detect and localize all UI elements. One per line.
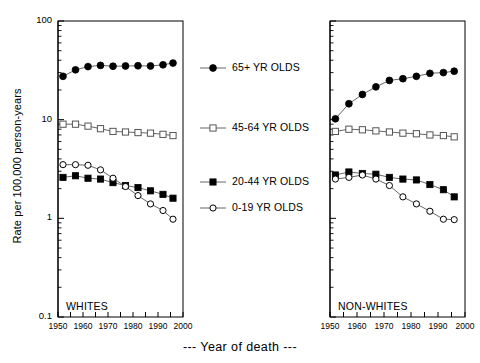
data-point-open-square [359, 127, 365, 133]
series-line [63, 176, 173, 198]
data-point-open-square [160, 131, 166, 137]
data-point-open-circle [427, 208, 433, 214]
data-point-open-circle [122, 183, 128, 189]
legend-label: 20-44 YR OLDS [232, 175, 309, 187]
data-point-filled-circle [135, 62, 142, 69]
data-point-filled-circle [170, 60, 177, 67]
data-point-filled-circle [413, 73, 420, 80]
legend-label: 65+ YR OLDS [232, 61, 300, 73]
data-point-filled-square [72, 173, 78, 179]
data-point-filled-square [451, 194, 457, 200]
panel-left [58, 21, 183, 317]
data-point-open-circle [160, 207, 166, 213]
data-point-open-circle [170, 216, 176, 222]
x-tick-label: 2000 [445, 321, 480, 331]
data-point-filled-circle [440, 69, 447, 76]
series-line [335, 129, 454, 137]
data-point-open-circle [85, 162, 91, 168]
data-point-filled-circle [160, 61, 167, 68]
y-tick-label: 100 [18, 14, 52, 25]
legend-entry [200, 65, 226, 72]
data-point-filled-square [97, 176, 103, 182]
series-open-square [60, 121, 176, 139]
data-point-open-square [122, 129, 128, 135]
data-point-filled-circle [147, 63, 154, 70]
series-line [335, 172, 454, 197]
series-open-square [332, 126, 457, 140]
series-filled-square [332, 169, 457, 200]
data-point-open-circle [373, 176, 379, 182]
data-point-filled-square [413, 177, 419, 183]
data-point-open-circle [72, 162, 78, 168]
y-tick-label: 10 [18, 113, 52, 124]
figure-caption: --- Year of death --- [0, 340, 480, 354]
series-filled-circle [332, 68, 458, 122]
data-point-filled-circle [85, 63, 92, 70]
panel-right [330, 21, 465, 317]
y-tick-label: 0.1 [18, 310, 52, 321]
data-point-open-circle [147, 201, 153, 207]
data-point-open-circle [440, 216, 446, 222]
data-point-open-square [60, 121, 66, 127]
data-point-open-square [97, 126, 103, 132]
data-point-filled-circle [72, 66, 79, 73]
data-point-open-circle [451, 217, 457, 223]
data-point-filled-square [400, 176, 406, 182]
data-point-filled-square [170, 195, 176, 201]
data-point-open-square [386, 129, 392, 135]
data-point-filled-square [147, 188, 153, 194]
data-point-filled-circle [97, 62, 104, 69]
data-point-filled-square [210, 179, 216, 185]
figure-root: Rate per 100,000 person-years --- Year o… [0, 0, 480, 363]
data-point-filled-circle [332, 115, 339, 122]
data-point-filled-circle [122, 63, 129, 70]
series-line [63, 63, 173, 76]
data-point-open-circle [110, 175, 116, 181]
data-point-open-circle [413, 201, 419, 207]
data-point-open-square [413, 131, 419, 137]
data-point-filled-square [440, 187, 446, 193]
data-point-open-square [135, 129, 141, 135]
data-point-open-square [440, 132, 446, 138]
legend-entry [200, 125, 226, 131]
legend-entry [200, 179, 226, 185]
legend-label: 0-19 YR OLDS [232, 201, 303, 213]
data-point-filled-circle [400, 75, 407, 82]
data-point-open-square [110, 128, 116, 134]
data-point-open-square [400, 130, 406, 136]
data-point-filled-square [386, 174, 392, 180]
data-point-filled-circle [346, 100, 353, 107]
data-point-filled-circle [210, 65, 217, 72]
series-line [63, 124, 173, 135]
data-point-open-circle [386, 182, 392, 188]
panel-title-right: NON-WHITES [338, 300, 408, 312]
data-point-filled-circle [451, 68, 458, 75]
data-point-open-circle [346, 174, 352, 180]
series-line [335, 71, 454, 119]
data-point-filled-square [427, 181, 433, 187]
series-line [63, 165, 173, 220]
data-point-open-circle [359, 172, 365, 178]
y-tick-label: 1 [18, 211, 52, 222]
data-point-filled-square [85, 175, 91, 181]
series-filled-square [60, 173, 176, 202]
data-point-open-square [346, 126, 352, 132]
data-point-open-square [72, 121, 78, 127]
data-point-filled-circle [110, 63, 117, 70]
data-point-filled-circle [386, 77, 393, 84]
data-point-filled-circle [60, 73, 67, 80]
series-line [335, 175, 454, 220]
data-point-open-square [85, 123, 91, 129]
panel-title-left: WHITES [66, 300, 108, 312]
data-point-open-circle [210, 205, 216, 211]
data-point-filled-circle [359, 91, 366, 98]
data-point-open-circle [400, 194, 406, 200]
x-tick-label: 2000 [163, 321, 203, 331]
legend-label: 45-64 YR OLDS [232, 121, 309, 133]
series-open-circle [60, 162, 176, 223]
series-open-circle [332, 172, 457, 223]
data-point-filled-square [135, 184, 141, 190]
data-point-filled-circle [427, 70, 434, 77]
data-point-open-square [373, 128, 379, 134]
data-point-open-square [451, 134, 457, 140]
